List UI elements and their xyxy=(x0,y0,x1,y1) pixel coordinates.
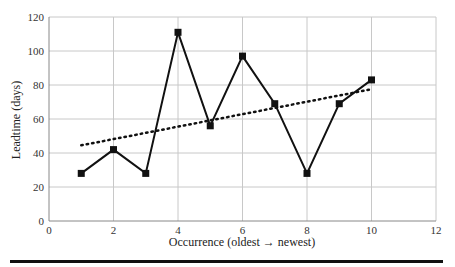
x-tick-label: 10 xyxy=(366,224,378,236)
y-tick-label: 20 xyxy=(33,181,45,193)
square-marker xyxy=(239,53,246,60)
y-tick-label: 0 xyxy=(39,215,45,227)
bottom-rule xyxy=(10,260,443,263)
square-marker xyxy=(207,122,214,129)
y-tick-label: 80 xyxy=(33,79,45,91)
dotted-trendline xyxy=(81,89,371,145)
y-axis-label: Leadtime (days) xyxy=(9,81,23,159)
square-marker xyxy=(368,76,375,83)
y-tick-label: 120 xyxy=(28,11,45,23)
square-marker xyxy=(78,170,85,177)
x-tick-label: 12 xyxy=(431,224,442,236)
y-tick-label: 60 xyxy=(33,113,45,125)
x-tick-label: 0 xyxy=(46,224,52,236)
trend-line xyxy=(81,89,371,145)
square-marker xyxy=(142,170,149,177)
square-marker xyxy=(271,100,278,107)
y-tick-label: 100 xyxy=(28,45,45,57)
grid-lines xyxy=(49,17,436,221)
leadtime-line xyxy=(81,32,371,173)
square-marker xyxy=(175,29,182,36)
leadtime-chart: 020406080100120 024681012 Leadtime (days… xyxy=(0,0,455,267)
y-tick-label: 40 xyxy=(33,147,45,159)
x-tick-label: 2 xyxy=(111,224,117,236)
y-axis-ticks: 020406080100120 xyxy=(28,11,45,227)
square-marker xyxy=(110,146,117,153)
square-marker xyxy=(336,100,343,107)
square-marker xyxy=(304,170,311,177)
x-axis-label: Occurrence (oldest → newest) xyxy=(169,235,315,249)
